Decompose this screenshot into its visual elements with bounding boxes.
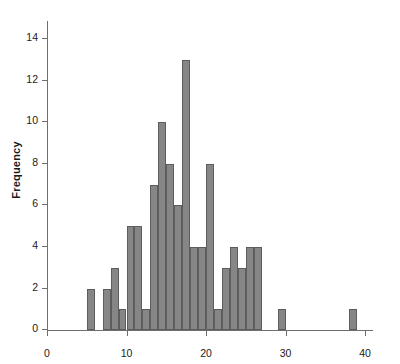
x-tick-label-30: 30	[280, 347, 292, 359]
y-tick-label-14: 14	[26, 31, 38, 43]
histogram-bar	[134, 226, 142, 330]
y-tick-label-4: 4	[32, 239, 38, 251]
x-tick-label-20: 20	[200, 347, 212, 359]
y-tick-2: 2	[42, 288, 47, 289]
y-tick-label-6: 6	[32, 197, 38, 209]
x-tick-label-0: 0	[44, 347, 50, 359]
histogram-bar	[174, 205, 182, 330]
x-tick-0: 0	[47, 331, 48, 336]
histogram-bar	[206, 164, 214, 330]
histogram-bar	[254, 247, 262, 330]
x-tick-30: 30	[286, 331, 287, 336]
y-tick-12: 12	[42, 80, 47, 81]
y-tick-4: 4	[42, 246, 47, 247]
x-tick-label-10: 10	[121, 347, 133, 359]
histogram-bar	[127, 226, 135, 330]
y-tick-label-2: 2	[32, 281, 38, 293]
histogram-bar	[349, 309, 357, 330]
x-tick-10: 10	[127, 331, 128, 336]
histogram-chart: Frequency 02468101214 010203040	[0, 0, 400, 364]
y-tick-14: 14	[42, 38, 47, 39]
y-tick-label-10: 10	[26, 114, 38, 126]
y-axis-title-text: Frequency	[10, 141, 22, 198]
y-axis-title: Frequency	[5, 0, 27, 340]
histogram-bar	[182, 60, 190, 330]
histogram-bar	[103, 289, 111, 331]
y-tick-0: 0	[42, 329, 47, 330]
y-tick-label-8: 8	[32, 156, 38, 168]
histogram-bar	[166, 164, 174, 330]
histogram-bar	[230, 247, 238, 330]
plot-area: 02468101214 010203040	[47, 27, 373, 330]
histogram-bar	[238, 268, 246, 330]
y-axis-line	[47, 21, 48, 330]
histogram-bar	[246, 247, 254, 330]
histogram-bar	[150, 185, 158, 330]
histogram-bar	[278, 309, 286, 330]
histogram-bar	[87, 289, 95, 331]
histogram-bar	[158, 122, 166, 330]
histogram-bar	[222, 268, 230, 330]
y-tick-label-0: 0	[32, 322, 38, 334]
y-tick-label-12: 12	[26, 73, 38, 85]
histogram-bar	[198, 247, 206, 330]
x-axis-line	[47, 330, 373, 331]
histogram-bar	[190, 247, 198, 330]
histogram-bar	[119, 309, 127, 330]
y-tick-6: 6	[42, 204, 47, 205]
histogram-bar	[214, 309, 222, 330]
histogram-bar	[111, 268, 119, 330]
y-tick-10: 10	[42, 121, 47, 122]
x-tick-40: 40	[365, 331, 366, 336]
x-tick-20: 20	[206, 331, 207, 336]
y-tick-8: 8	[42, 163, 47, 164]
histogram-bar	[142, 309, 150, 330]
x-tick-label-40: 40	[359, 347, 371, 359]
